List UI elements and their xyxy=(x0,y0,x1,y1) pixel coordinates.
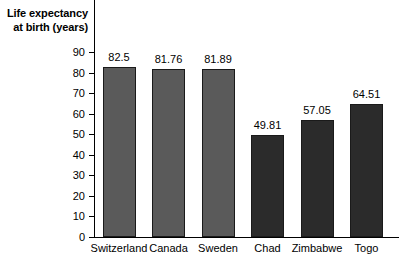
x-axis-line xyxy=(94,237,399,238)
x-axis-category-label: Togo xyxy=(322,242,412,254)
bar-value-label: 57.05 xyxy=(287,105,347,116)
y-axis-title-line-1: Life expectancy xyxy=(0,6,88,20)
bar xyxy=(202,69,235,237)
bar xyxy=(152,69,185,237)
y-axis-tick-label: 30 xyxy=(52,170,85,181)
bar xyxy=(251,135,284,237)
life-expectancy-bar-chart: Life expectancy at birth (years) 0102030… xyxy=(0,0,413,270)
bar xyxy=(103,67,136,237)
y-axis-tick-label: 80 xyxy=(52,68,85,79)
bar xyxy=(350,104,383,237)
plot-area: 82.581.7681.8949.8157.0564.51 xyxy=(95,0,399,237)
bar-value-label: 64.51 xyxy=(337,89,397,100)
y-axis-tick-label: 50 xyxy=(52,129,85,140)
y-axis-tick xyxy=(89,237,95,238)
y-axis-tick-label: 40 xyxy=(52,150,85,161)
y-axis-tick-label: 70 xyxy=(52,88,85,99)
bar-value-label: 81.89 xyxy=(188,54,248,65)
y-axis-tick-label: 10 xyxy=(52,211,85,222)
bar-value-label: 49.81 xyxy=(238,120,298,131)
y-axis-tick-label: 20 xyxy=(52,191,85,202)
y-axis-tick-label: 90 xyxy=(52,47,85,58)
bar xyxy=(301,120,334,237)
y-axis-title: Life expectancy at birth (years) xyxy=(0,6,88,34)
y-axis-tick-label: 60 xyxy=(52,109,85,120)
y-axis-title-line-2: at birth (years) xyxy=(0,20,88,34)
